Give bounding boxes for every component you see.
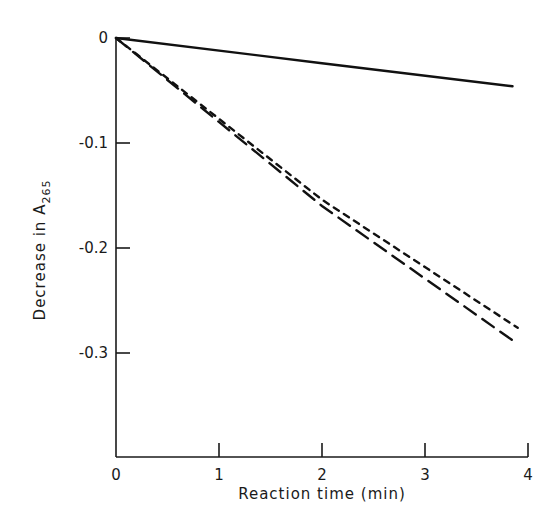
y-axis-ticks: 0-0.1-0.2-0.3 <box>79 29 130 362</box>
x-tick-label: 3 <box>420 466 430 484</box>
plot-series <box>116 38 518 343</box>
x-axis-title: Reaction time (min) <box>238 485 406 503</box>
y-axis-title: Decrease in A265 <box>31 180 53 321</box>
y-tick-label: -0.2 <box>79 239 108 257</box>
y-tick-label: -0.1 <box>79 134 108 152</box>
line-chart: 01234 0-0.1-0.2-0.3 Reaction time (min) … <box>0 0 560 530</box>
y-tick-label: -0.3 <box>79 344 108 362</box>
series-short-dashed-line <box>116 38 518 328</box>
series-solid-line <box>116 38 513 86</box>
x-tick-label: 1 <box>214 466 224 484</box>
y-axis-title-main: Decrease in A <box>31 204 49 321</box>
y-tick-label: 0 <box>98 29 108 47</box>
x-axis-ticks: 01234 <box>111 443 533 484</box>
x-tick-label: 4 <box>523 466 533 484</box>
y-axis-title-subscript: 265 <box>40 180 53 204</box>
x-tick-label: 0 <box>111 466 121 484</box>
x-tick-label: 2 <box>317 466 327 484</box>
